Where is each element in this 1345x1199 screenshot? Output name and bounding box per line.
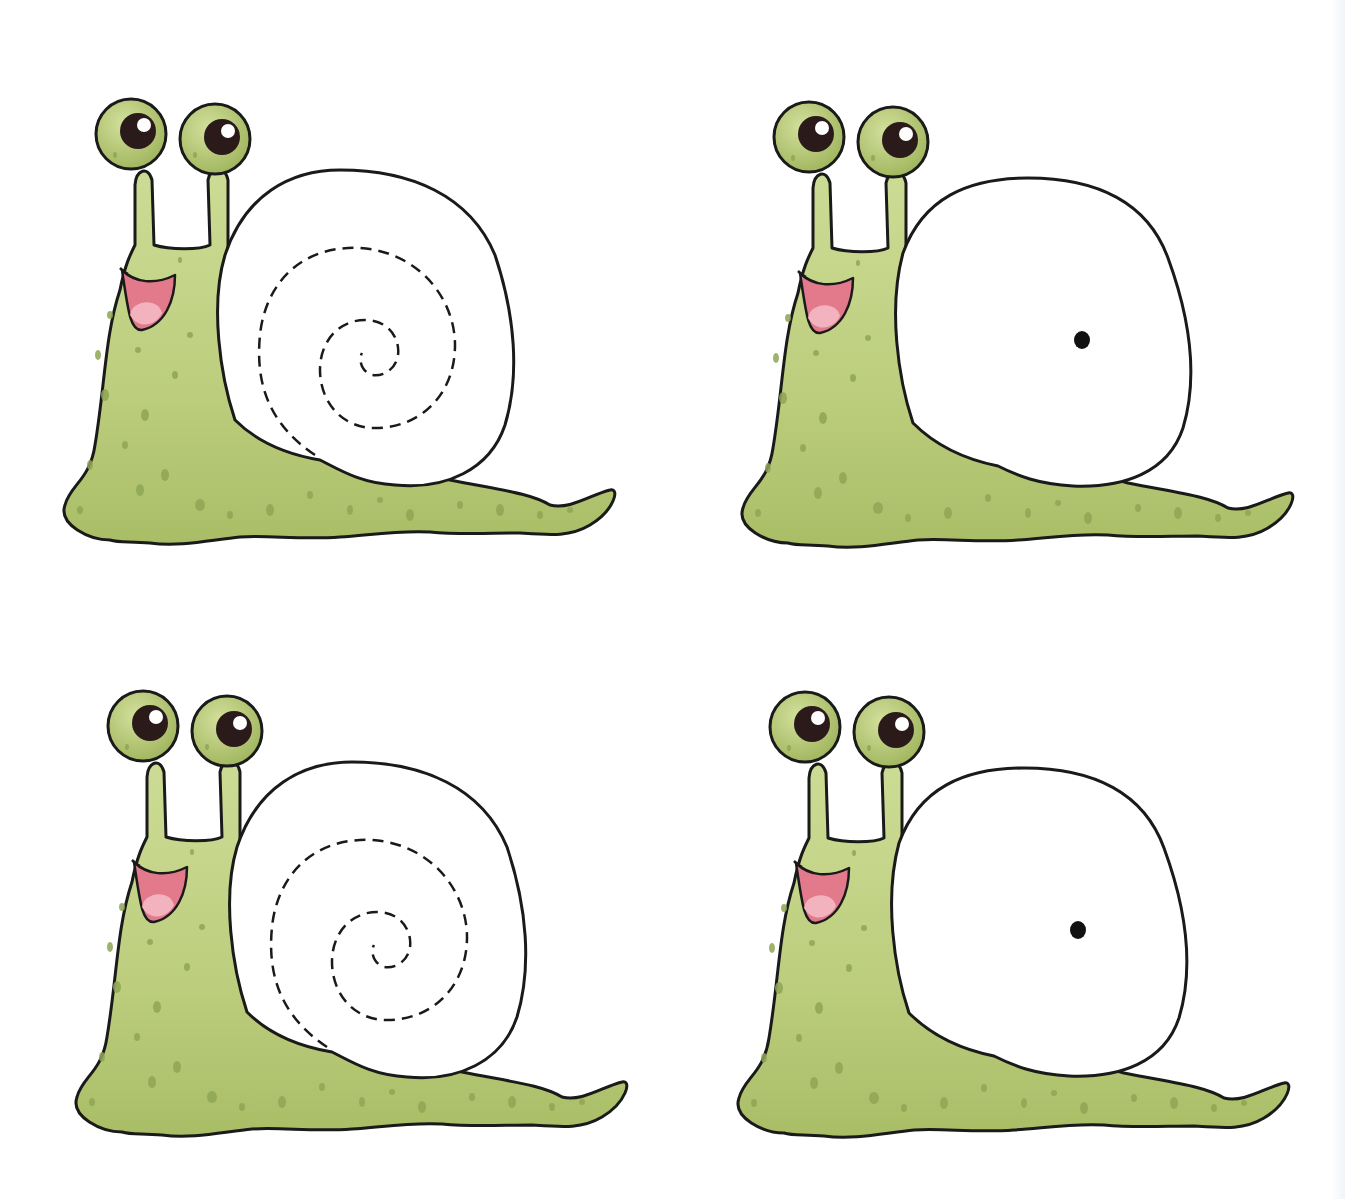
shell-outline (892, 768, 1187, 1076)
snail-dashed-spiral-bottom-left (62, 677, 642, 1147)
start-dot (1070, 921, 1086, 939)
start-dot (1074, 331, 1090, 349)
snail-start-dot-bottom-right (724, 678, 1304, 1148)
snail-dashed-spiral-top-left (50, 85, 630, 555)
snail-illustration (50, 85, 630, 555)
page-edge-shadow (1331, 0, 1345, 1199)
shell-outline (896, 178, 1191, 486)
snail-illustration (724, 678, 1304, 1148)
snail-illustration (728, 88, 1308, 558)
snail-illustration (62, 677, 642, 1147)
snail-start-dot-top-right (728, 88, 1308, 558)
